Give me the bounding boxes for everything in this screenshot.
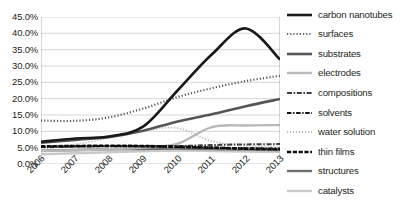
line-chart: 45.0%40.0%35.0%30.0%25.0%20.0%15.0%10.0%…	[0, 0, 413, 209]
legend-item-solvents[interactable]: solvents	[286, 103, 352, 123]
chart-legend: carbon nanotubessurfacessubstrateselectr…	[286, 5, 413, 205]
y-axis: 45.0%40.0%35.0%30.0%25.0%20.0%15.0%10.0%…	[0, 10, 38, 171]
legend-swatch-icon	[286, 49, 313, 59]
y-tick-label: 5.0%	[17, 143, 38, 153]
legend-item-carbon-nanotubes[interactable]: carbon nanotubes	[286, 5, 392, 25]
legend-label: compositions	[318, 88, 372, 98]
legend-swatch-icon	[286, 166, 313, 176]
legend-swatch-icon	[286, 108, 313, 118]
legend-swatch-icon	[286, 68, 313, 78]
legend-label: substrates	[318, 49, 361, 59]
y-tick-label: 15.0%	[12, 110, 38, 120]
legend-swatch-icon	[286, 10, 313, 20]
y-tick-label: 10.0%	[12, 126, 38, 136]
legend-swatch-icon	[286, 88, 313, 98]
legend-item-water-solution[interactable]: water solution	[286, 122, 375, 142]
legend-label: thin films	[318, 147, 354, 157]
legend-label: structures	[318, 166, 359, 176]
legend-label: carbon nanotubes	[318, 10, 392, 20]
legend-item-catalysts[interactable]: catalysts	[286, 181, 354, 201]
legend-swatch-icon	[286, 147, 313, 157]
y-tick-label: 30.0%	[12, 61, 38, 71]
legend-label: surfaces	[318, 29, 353, 39]
y-tick-label: 40.0%	[12, 28, 38, 38]
legend-label: electrodes	[318, 68, 361, 78]
legend-swatch-icon	[286, 29, 313, 39]
legend-item-substrates[interactable]: substrates	[286, 44, 361, 64]
legend-label: solvents	[318, 108, 352, 118]
legend-item-thin-films[interactable]: thin films	[286, 142, 354, 162]
legend-item-structures[interactable]: structures	[286, 161, 359, 181]
legend-swatch-icon	[286, 127, 313, 137]
legend-swatch-icon	[286, 186, 313, 196]
legend-item-electrodes[interactable]: electrodes	[286, 64, 361, 84]
y-tick-label: 35.0%	[12, 45, 38, 55]
y-tick-label: 45.0%	[12, 12, 38, 22]
y-tick-label: 20.0%	[12, 94, 38, 104]
legend-item-compositions[interactable]: compositions	[286, 83, 372, 103]
legend-item-surfaces[interactable]: surfaces	[286, 25, 353, 45]
legend-label: water solution	[318, 127, 375, 137]
plot-svg	[41, 17, 280, 164]
legend-label: catalysts	[318, 186, 354, 196]
x-axis: 20062007200820092010201120122013	[41, 164, 291, 209]
plot-area	[41, 17, 280, 164]
y-tick-label: 25.0%	[12, 77, 38, 87]
